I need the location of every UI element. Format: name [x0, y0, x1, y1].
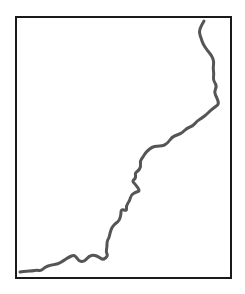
meandering-line [0, 0, 245, 294]
river-path [20, 21, 218, 272]
